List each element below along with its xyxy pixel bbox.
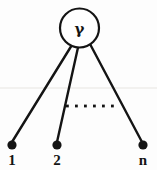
edge-hub-to-node-n [90, 44, 142, 142]
leaf-node-dot-1 [7, 140, 16, 149]
hub-node: γ [60, 9, 99, 48]
ellipsis-dot [75, 105, 78, 108]
ellipsis-dot [102, 105, 105, 108]
ellipsis-dot [84, 105, 87, 108]
ellipsis-group [66, 105, 114, 108]
edge-hub-to-node-2 [57, 48, 78, 143]
leaf-node-dot-n [138, 140, 147, 149]
leaf-node-dot-2 [52, 140, 61, 149]
ellipsis-dot [66, 105, 69, 108]
ellipsis-dot [111, 105, 114, 108]
leaf-label-2: 2 [47, 153, 67, 168]
star-graph-figure: γ 1 2 n [0, 0, 157, 170]
star-graph-canvas: γ [0, 0, 157, 170]
leaf-label-1: 1 [2, 153, 22, 168]
hub-label-gamma: γ [75, 20, 85, 38]
leaf-label-n: n [133, 153, 153, 168]
edge-hub-to-node-1 [12, 47, 71, 143]
edge-group [12, 44, 142, 142]
ellipsis-dot [93, 105, 96, 108]
leaf-node-group [7, 140, 147, 149]
